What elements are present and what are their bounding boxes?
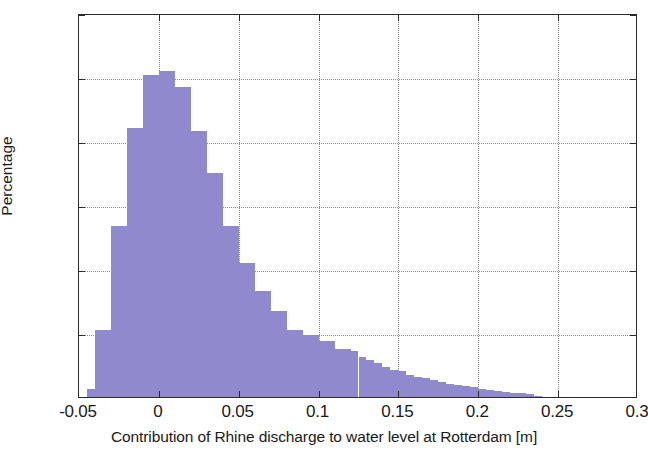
histogram-figure: Percentage Contribution of Rhine dischar… xyxy=(0,0,648,452)
y-axis-tick xyxy=(79,15,85,16)
y-axis-tick-right xyxy=(630,15,636,16)
x-axis-tick-top xyxy=(319,15,320,21)
x-axis-tick xyxy=(319,391,320,397)
y-axis-tick-right xyxy=(630,271,636,272)
x-axis-tick-top xyxy=(159,15,160,21)
x-axis-tick xyxy=(558,391,559,397)
x-tick-label: 0.2 xyxy=(466,402,489,422)
y-axis-tick xyxy=(79,143,85,144)
plot-area xyxy=(78,14,637,398)
x-axis-tick xyxy=(398,391,399,397)
y-axis-tick xyxy=(79,335,85,336)
x-tick-label: 0.3 xyxy=(625,402,648,422)
x-tick-label: 0.25 xyxy=(541,402,573,422)
x-tick-label: 0 xyxy=(153,402,162,422)
x-axis-tick xyxy=(478,391,479,397)
y-axis-tick-right xyxy=(630,207,636,208)
y-axis-tick-right xyxy=(630,79,636,80)
y-axis-tick-right xyxy=(630,335,636,336)
y-axis-tick xyxy=(79,207,85,208)
x-axis-tick-top xyxy=(239,15,240,21)
x-tick-label: 0.1 xyxy=(306,402,329,422)
y-axis-tick xyxy=(79,79,85,80)
x-tick-label: -0.05 xyxy=(59,402,97,422)
x-axis-tick xyxy=(159,391,160,397)
x-axis-title: Contribution of Rhine discharge to water… xyxy=(0,428,648,446)
x-axis-tick-top xyxy=(478,15,479,21)
x-axis-tick-top xyxy=(398,15,399,21)
x-axis-tick-top xyxy=(558,15,559,21)
axis-ticks xyxy=(79,15,636,397)
y-axis-tick xyxy=(79,271,85,272)
x-tick-label: 0.05 xyxy=(222,402,254,422)
y-axis-title: Percentage xyxy=(0,96,16,256)
x-tick-label: 0.15 xyxy=(381,402,413,422)
y-axis-tick-right xyxy=(630,143,636,144)
x-axis-tick xyxy=(239,391,240,397)
